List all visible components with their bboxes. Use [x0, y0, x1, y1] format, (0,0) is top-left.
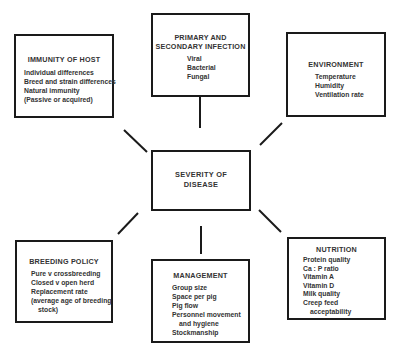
breeding-title: BREEDING POLICY [17, 257, 111, 266]
nutrition-items: Protein quality Ca : P ratio Vitamin A V… [289, 256, 384, 316]
infection-items: Viral Bacterial Fungal [153, 54, 248, 81]
environment-title: ENVIRONMENT [288, 60, 384, 69]
management-items: Group size Space per pig Pig flow Person… [153, 283, 248, 337]
breeding-items: Pure v crossbreeding Closed v open herd … [17, 269, 111, 314]
environment-items: Temperature Humidity Ventilation rate [288, 72, 384, 99]
environment-box: ENVIRONMENT Temperature Humidity Ventila… [286, 32, 386, 117]
severity-of-disease-box: SEVERITY OF DISEASE [151, 150, 251, 211]
breeding-item: Replacement rate [31, 287, 111, 296]
infection-item: Fungal [187, 72, 248, 81]
nutrition-item: Ca : P ratio [303, 265, 384, 274]
breeding-item: stock) [31, 305, 111, 314]
management-item: Pig flow [172, 301, 248, 310]
breeding-item: Closed v open herd [31, 278, 111, 287]
environment-item: Temperature [315, 72, 384, 81]
immunity-item: (Passive or acquired) [24, 95, 112, 104]
immunity-of-host-box: IMMUNITY OF HOST Individual differences … [14, 34, 114, 118]
infection-item: Viral [187, 54, 248, 63]
management-title: MANAGEMENT [153, 271, 248, 280]
breeding-item: Pure v crossbreeding [31, 269, 111, 278]
management-item: Personnel movement [172, 310, 248, 319]
severity-title: SEVERITY OF DISEASE [153, 170, 249, 189]
management-item: Stockmanship [172, 328, 248, 337]
connector-breeding [118, 213, 138, 234]
connector-environment [260, 123, 282, 145]
environment-item: Humidity [315, 81, 384, 90]
infection-item: Bacterial [187, 63, 248, 72]
connector-immunity [124, 130, 147, 152]
immunity-item: Individual differences [24, 68, 112, 77]
management-item: and hygiene [172, 319, 248, 328]
nutrition-item: Vitamin A [303, 273, 384, 282]
environment-item: Ventilation rate [315, 90, 384, 99]
breeding-item: (average age of breeding [31, 296, 111, 305]
nutrition-title: NUTRITION [289, 245, 384, 254]
immunity-items: Individual differences Breed and strain … [16, 68, 112, 104]
infection-title-line1: PRIMARY AND [153, 33, 248, 42]
immunity-item: Natural immunity [24, 86, 112, 95]
management-item: Space per pig [172, 292, 248, 301]
nutrition-item: Protein quality [303, 256, 384, 265]
infection-title: PRIMARY AND SECONDARY INFECTION [153, 33, 248, 51]
immunity-item: Breed and strain differences [24, 77, 112, 86]
nutrition-item: Milk quality [303, 290, 384, 299]
nutrition-item: acceptability [303, 308, 384, 317]
breeding-policy-box: BREEDING POLICY Pure v crossbreeding Clo… [15, 240, 113, 323]
nutrition-item: Creep feed [303, 299, 384, 308]
infection-box: PRIMARY AND SECONDARY INFECTION Viral Ba… [151, 13, 250, 97]
infection-title-line2: SECONDARY INFECTION [153, 42, 248, 51]
connector-nutrition [259, 210, 281, 232]
nutrition-item: Vitamin D [303, 282, 384, 291]
management-item: Group size [172, 283, 248, 292]
severity-title-line2: DISEASE [153, 180, 249, 190]
immunity-title: IMMUNITY OF HOST [16, 55, 112, 64]
management-box: MANAGEMENT Group size Space per pig Pig … [151, 259, 250, 343]
severity-title-line1: SEVERITY OF [153, 170, 249, 180]
nutrition-box: NUTRITION Protein quality Ca : P ratio V… [287, 237, 386, 320]
